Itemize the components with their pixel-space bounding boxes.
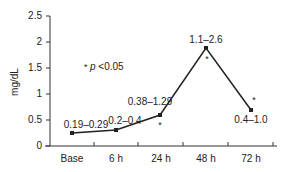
- y-tick-label: 1.5: [28, 62, 42, 73]
- x-tick-label: 24 h: [151, 153, 170, 164]
- legend-star: *: [84, 62, 88, 72]
- legend-threshold: <0.05: [96, 61, 125, 72]
- x-tick-label: 72 h: [241, 153, 260, 164]
- significance-star: *: [158, 120, 162, 130]
- line-chart: 0 0.5 1 1.5 2 2.5 mg/dL Base 6 h 24 h 48…: [0, 0, 285, 172]
- y-tick-label: 1: [36, 88, 42, 99]
- y-tick-label: 0.5: [28, 114, 42, 125]
- y-ticks: 0 0.5 1 1.5 2 2.5: [28, 10, 50, 151]
- y-tick-label: 2: [36, 36, 42, 47]
- y-axis-label: mg/dL: [9, 68, 20, 96]
- range-label-72h: 0.4–1.0: [234, 114, 268, 125]
- y-tick-label: 2.5: [28, 10, 42, 21]
- x-tick-label: 6 h: [109, 153, 123, 164]
- range-label-48h: 1.1–2.6: [189, 34, 223, 45]
- range-label-base: 0.19–0.29: [64, 119, 109, 130]
- legend-text: p <0.05: [89, 61, 124, 72]
- x-ticks: Base 6 h 24 h 48 h 72 h: [61, 142, 273, 164]
- x-tick-label: 48 h: [196, 153, 215, 164]
- y-tick-label: 0: [36, 140, 42, 151]
- significance-star: *: [205, 54, 209, 64]
- significance-star: *: [252, 95, 256, 105]
- legend: * p <0.05: [84, 61, 124, 72]
- range-label-24h: 0.38–1.29: [128, 96, 173, 107]
- x-tick-label: Base: [61, 153, 84, 164]
- range-label-6h: 0.2–0.4: [108, 115, 142, 126]
